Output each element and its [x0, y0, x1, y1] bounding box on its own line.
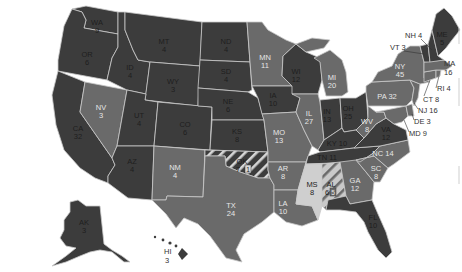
label-ms-ev: 8 [310, 188, 314, 197]
label-fl-ev: 10 [369, 221, 377, 230]
label-al-ev: 6 [325, 188, 329, 197]
label-ks-ev: 8 [235, 135, 239, 144]
label-la-ev: 10 [279, 207, 287, 216]
label-nv-ev: 3 [99, 111, 103, 120]
label-nj: NJ 16 [418, 106, 438, 115]
label-hi-ev: 3 [165, 256, 169, 265]
label-mt-ev: 4 [162, 45, 166, 54]
label-va-ev: 12 [382, 133, 390, 142]
label-wv-ev: 8 [365, 125, 369, 134]
label-id-ev: 4 [128, 71, 132, 80]
label-ne-ev: 6 [226, 105, 230, 114]
label-nc: NC 14 [372, 149, 393, 158]
label-wi-ev: 12 [292, 75, 300, 84]
label-mo-ev: 13 [275, 136, 283, 145]
label-ct: CT 8 [423, 95, 439, 104]
label-mi-ev: 20 [328, 81, 336, 90]
label-me-ev: 5 [440, 38, 444, 47]
label-tx-ev: 24 [227, 209, 235, 218]
state-nm[interactable] [152, 146, 205, 200]
label-ia-ev: 10 [269, 99, 277, 108]
label-ar-ev: 8 [281, 172, 285, 181]
label-il-ev: 27 [305, 117, 313, 126]
label-pa: PA 32 [377, 92, 396, 101]
state-ak[interactable] [52, 200, 130, 266]
label-nd-ev: 4 [224, 45, 228, 54]
label-ga-ev: 12 [351, 184, 359, 193]
label-or-ev: 6 [85, 58, 89, 67]
label-mn-ev: 11 [261, 61, 269, 70]
state-fl[interactable] [326, 196, 392, 258]
label-ri: RI 4 [437, 84, 451, 93]
label-hi: HI [164, 247, 172, 256]
label-ma: MA [444, 59, 455, 68]
label-wy-ev: 3 [171, 85, 175, 94]
label-ca-ev: 32 [74, 132, 82, 141]
label-ok-ev: 7 [236, 165, 240, 174]
label-sc-ev: 8 [374, 172, 378, 181]
label-in-ev: 13 [323, 115, 331, 124]
label-wa-ev: 9 [95, 26, 99, 35]
label-ut-ev: 4 [137, 119, 141, 128]
label-ky: KY 10 [327, 139, 347, 148]
label-nm-ev: 4 [173, 171, 177, 180]
label-al-split-ev: 5 [331, 189, 335, 196]
us-electoral-map: WA 9 OR 6 CA 32 NV 3 ID 4 MT 4 WY 3 UT 4… [0, 0, 462, 272]
label-md: MD 9 [409, 129, 427, 138]
label-ak-ev: 3 [82, 226, 86, 235]
label-ny-ev: 45 [396, 70, 404, 79]
label-sd-ev: 4 [224, 75, 228, 84]
label-az-ev: 4 [130, 165, 134, 174]
label-nh: NH 4 [405, 31, 422, 40]
label-tn: TN 11 [317, 153, 337, 162]
label-oh-ev: 25 [344, 112, 352, 121]
label-ok-split-ev: 1 [246, 166, 250, 173]
label-de: DE 3 [414, 117, 431, 126]
label-vt: VT 3 [390, 43, 406, 52]
label-co-ev: 6 [183, 128, 187, 137]
label-ma-ev: 16 [444, 68, 452, 77]
